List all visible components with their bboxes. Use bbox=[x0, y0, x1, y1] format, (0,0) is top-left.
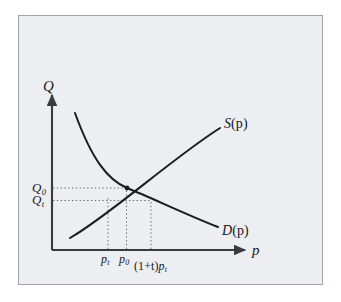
supply-curve-label: S(p) bbox=[224, 117, 248, 131]
x-tick-label-ptt: (1+t)pt bbox=[134, 260, 167, 272]
demand-label-main: D bbox=[222, 223, 232, 238]
pt-subscript: t bbox=[107, 258, 109, 267]
demand-label-arg: (p) bbox=[232, 223, 249, 238]
y-axis-label: Q bbox=[43, 79, 54, 94]
x-tick-label-pt: pt bbox=[101, 253, 109, 265]
p0-subscript: 0 bbox=[125, 258, 129, 267]
supply-label-arg: (p) bbox=[231, 116, 248, 131]
ptt-prefix: (1+t) bbox=[134, 259, 159, 273]
y-tick-label-qt: Qt bbox=[32, 193, 44, 206]
ptt-subscript: t bbox=[165, 265, 167, 274]
qt-base: Q bbox=[32, 192, 42, 207]
x-axis-label: p bbox=[252, 243, 260, 258]
demand-curve-label: D(p) bbox=[222, 224, 249, 238]
x-tick-label-p0: p0 bbox=[119, 253, 129, 265]
figure-frame bbox=[18, 15, 323, 285]
qt-subscript: t bbox=[42, 199, 44, 209]
figure-root: Q p S(p) D(p) Q0 Qt pt p0 (1+t)pt bbox=[0, 0, 341, 302]
ptt-base: p bbox=[159, 259, 165, 273]
